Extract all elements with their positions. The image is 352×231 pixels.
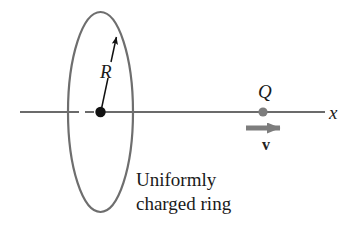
radius-label: R xyxy=(100,62,112,81)
ring-center-dot xyxy=(95,107,105,117)
velocity-label: v xyxy=(262,137,270,153)
physics-diagram-figure: R Q x v Uniformly charged ring xyxy=(0,0,352,231)
charge-label: Q xyxy=(258,82,272,101)
radius-arrow-lower-stem xyxy=(101,78,108,111)
ring-caption: Uniformly charged ring xyxy=(136,168,231,216)
radius-arrow-upper-stem xyxy=(111,37,116,62)
x-axis-label: x xyxy=(329,103,337,122)
point-charge-dot xyxy=(258,107,267,116)
